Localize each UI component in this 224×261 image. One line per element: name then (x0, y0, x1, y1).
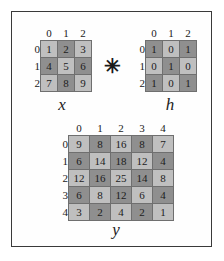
matrix-y-cell-2-2: 25 (111, 170, 132, 187)
matrix-x-cell-1-1: 5 (58, 58, 75, 75)
matrix-x-row: 1456 (29, 58, 92, 75)
matrix-h-col-header-0: 0 (146, 27, 163, 41)
matrix-x-cell-2-0: 7 (41, 75, 58, 92)
matrix-y-cell-2-0: 12 (69, 170, 90, 187)
matrix-y-cell-0-0: 9 (69, 136, 90, 153)
matrix-x-col-header-0: 0 (41, 27, 58, 41)
matrix-x-row-header-0: 0 (29, 41, 41, 58)
matrix-x-col-header-2: 2 (75, 27, 92, 41)
matrix-y-corner (56, 122, 69, 136)
matrix-y-row-header-3: 3 (56, 187, 69, 204)
matrix-h-label: h (150, 95, 190, 115)
matrix-y-cell-1-3: 12 (132, 153, 153, 170)
matrix-y-row: 0981687 (56, 136, 174, 153)
matrix-y-cell-1-4: 4 (153, 153, 174, 170)
matrix-x-cell-2-2: 9 (75, 75, 92, 92)
matrix-h-cell-0-2: 1 (180, 41, 197, 58)
matrix-x-label: x (42, 95, 82, 115)
matrix-x-cell-0-2: 3 (75, 41, 92, 58)
matrix-h-cell-1-2: 0 (180, 58, 197, 75)
matrix-h-row-header-1: 1 (134, 58, 146, 75)
matrix-x-grid: 012012314562789 (29, 27, 92, 92)
matrix-y-col-header-4: 4 (153, 122, 174, 136)
matrix-y-cell-4-1: 2 (90, 204, 111, 221)
matrix-x-cell-0-1: 2 (58, 41, 75, 58)
matrix-y-row: 432421 (56, 204, 174, 221)
matrix-h-cell-2-1: 0 (163, 75, 180, 92)
matrix-y-row: 161418124 (56, 153, 174, 170)
matrix-y: 0123409816871614181242121625148368126443… (56, 122, 174, 221)
matrix-y-cell-4-3: 2 (132, 204, 153, 221)
matrix-y-row-header-4: 4 (56, 204, 69, 221)
convolution-figure: 012012314562789 x ✳ 012010110102101 h 01… (0, 0, 224, 261)
matrix-h-row: 1010 (134, 58, 197, 75)
matrix-y-row-header-1: 1 (56, 153, 69, 170)
matrix-y-cell-4-4: 1 (153, 204, 174, 221)
matrix-h: 012010110102101 (134, 27, 197, 92)
matrix-y-cell-1-1: 14 (90, 153, 111, 170)
matrix-y-header-row: 01234 (56, 122, 174, 136)
matrix-y-row-header-2: 2 (56, 170, 69, 187)
matrix-y-cell-3-0: 6 (69, 187, 90, 204)
matrix-x-row-header-2: 2 (29, 75, 41, 92)
matrix-h-col-header-1: 1 (163, 27, 180, 41)
matrix-y-cell-4-2: 4 (111, 204, 132, 221)
matrix-h-grid: 012010110102101 (134, 27, 197, 92)
matrix-h-row: 0101 (134, 41, 197, 58)
matrix-y-col-header-2: 2 (111, 122, 132, 136)
matrix-h-header-row: 012 (134, 27, 197, 41)
matrix-h-cell-1-1: 1 (163, 58, 180, 75)
matrix-h-cell-1-0: 0 (146, 58, 163, 75)
matrix-x-col-header-1: 1 (58, 27, 75, 41)
matrix-y-col-header-0: 0 (69, 122, 90, 136)
matrix-y-row-header-0: 0 (56, 136, 69, 153)
matrix-x: 012012314562789 (29, 27, 92, 92)
matrix-y-cell-0-1: 8 (90, 136, 111, 153)
matrix-h-row-header-0: 0 (134, 41, 146, 58)
matrix-h-cell-2-0: 1 (146, 75, 163, 92)
matrix-h-cell-2-2: 1 (180, 75, 197, 92)
matrix-x-row: 2789 (29, 75, 92, 92)
matrix-h-col-header-2: 2 (180, 27, 197, 41)
matrix-y-label: y (96, 220, 136, 240)
matrix-x-header-row: 012 (29, 27, 92, 41)
matrix-x-cell-0-0: 1 (41, 41, 58, 58)
matrix-y-cell-3-1: 8 (90, 187, 111, 204)
convolution-operator-icon: ✳ (104, 56, 121, 76)
matrix-h-cell-0-0: 1 (146, 41, 163, 58)
matrix-x-cell-2-1: 8 (58, 75, 75, 92)
matrix-x-cell-1-2: 6 (75, 58, 92, 75)
matrix-y-row: 2121625148 (56, 170, 174, 187)
matrix-x-row-header-1: 1 (29, 58, 41, 75)
matrix-h-cell-0-1: 0 (163, 41, 180, 58)
matrix-y-col-header-1: 1 (90, 122, 111, 136)
matrix-y-grid: 0123409816871614181242121625148368126443… (56, 122, 174, 221)
matrix-x-row: 0123 (29, 41, 92, 58)
matrix-y-cell-3-2: 12 (111, 187, 132, 204)
matrix-x-corner (29, 27, 41, 41)
matrix-y-cell-4-0: 3 (69, 204, 90, 221)
matrix-y-cell-0-3: 8 (132, 136, 153, 153)
matrix-y-row: 3681264 (56, 187, 174, 204)
matrix-h-row-header-2: 2 (134, 75, 146, 92)
matrix-x-cell-1-0: 4 (41, 58, 58, 75)
matrix-y-cell-2-1: 16 (90, 170, 111, 187)
matrix-h-corner (134, 27, 146, 41)
matrix-h-row: 2101 (134, 75, 197, 92)
matrix-y-cell-0-4: 7 (153, 136, 174, 153)
matrix-y-cell-1-2: 18 (111, 153, 132, 170)
matrix-y-cell-3-3: 6 (132, 187, 153, 204)
matrix-y-cell-3-4: 4 (153, 187, 174, 204)
matrix-y-cell-0-2: 16 (111, 136, 132, 153)
matrix-y-cell-1-0: 6 (69, 153, 90, 170)
matrix-y-cell-2-4: 8 (153, 170, 174, 187)
matrix-y-cell-2-3: 14 (132, 170, 153, 187)
matrix-y-col-header-3: 3 (132, 122, 153, 136)
